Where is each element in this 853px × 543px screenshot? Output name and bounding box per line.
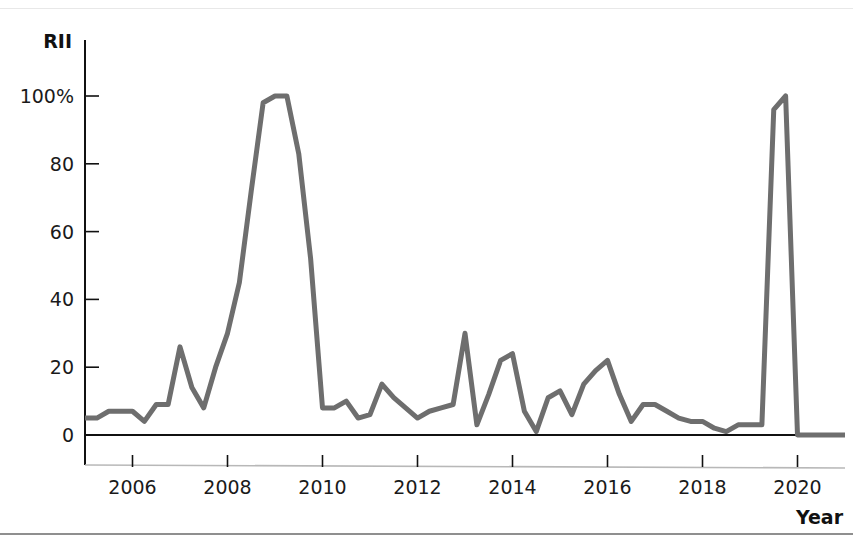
y-tick-label: 20 (50, 356, 74, 378)
y-tick-label: 60 (50, 221, 74, 243)
y-tick-label: 0 (62, 424, 74, 446)
y-tick-group: 020406080100% (20, 85, 99, 446)
y-tick-label: 100% (20, 85, 74, 107)
x-tick-group: 20062008201020122014201620182020 (108, 455, 821, 498)
x-tick-label: 2010 (298, 476, 346, 498)
x-tick-label: 2016 (583, 476, 631, 498)
y-axis-title: RII (43, 30, 72, 52)
chart-figure: 020406080100% 20062008201020122014201620… (0, 0, 853, 543)
x-tick-label: 2012 (393, 476, 441, 498)
rii-line-chart: 020406080100% 20062008201020122014201620… (0, 0, 853, 543)
rii-series-line (85, 96, 845, 435)
x-tick-label: 2014 (488, 476, 536, 498)
x-axis-bottom-rule (85, 465, 845, 468)
x-tick-label: 2008 (203, 476, 251, 498)
bottom-divider-rule (0, 533, 853, 535)
x-axis-title: Year (795, 506, 844, 528)
y-tick-label: 40 (50, 288, 74, 310)
x-tick-label: 2006 (108, 476, 156, 498)
x-tick-label: 2018 (678, 476, 726, 498)
x-tick-label: 2020 (773, 476, 821, 498)
y-tick-label: 80 (50, 153, 74, 175)
